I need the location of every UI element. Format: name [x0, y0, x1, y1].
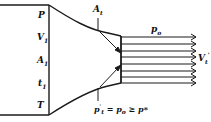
label-P: P — [38, 11, 45, 20]
label-t1: t1 — [38, 79, 46, 90]
label-V1: V1 — [37, 33, 48, 44]
jet-streamlines — [121, 34, 196, 86]
label-A1: A1 — [37, 56, 48, 67]
flow-arrows — [100, 32, 121, 87]
upper-nozzle-contour — [49, 5, 121, 36]
label-ambient-pressure: po — [151, 25, 161, 36]
label-exit-condition: p't = po ≥ p* — [94, 104, 148, 115]
label-T: T — [37, 101, 44, 110]
label-jet-velocity: Vt' — [198, 52, 210, 65]
label-throat-area: At — [93, 5, 103, 16]
